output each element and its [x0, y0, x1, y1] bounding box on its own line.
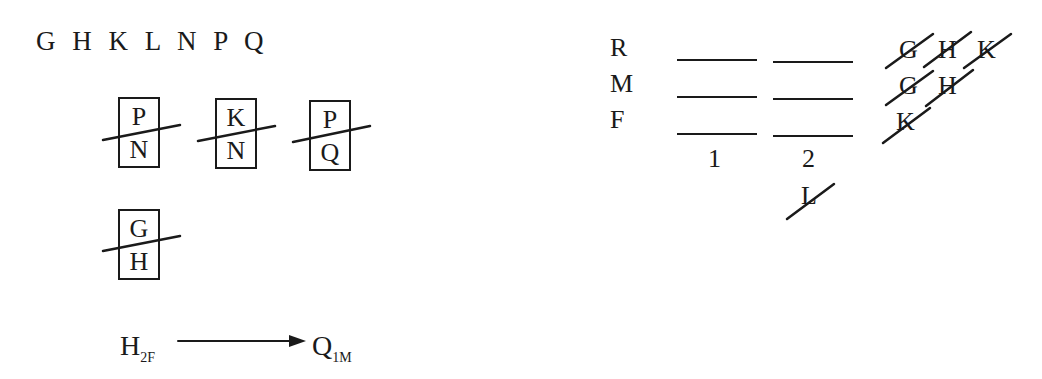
row-label-r: R: [610, 34, 627, 62]
pair-box-p-n: P N: [118, 97, 160, 168]
candidate-col2-l: L: [801, 182, 817, 210]
rule-from-letter: H: [120, 330, 140, 361]
pair-box-p-q: P Q: [309, 100, 351, 171]
slot-r-1: [677, 59, 757, 61]
pair-box-bottom: N: [217, 137, 255, 165]
pair-box-top: P: [311, 106, 349, 134]
pair-box-bottom: N: [120, 136, 158, 164]
rule-to-subscript: 1M: [332, 350, 351, 365]
slot-r-2: [773, 61, 853, 63]
row-label-f: F: [610, 106, 624, 134]
pair-box-top: G: [120, 215, 158, 243]
rule-from: H2F: [120, 330, 155, 362]
candidate-m-h: H: [938, 72, 957, 100]
slot-m-1: [677, 96, 757, 98]
letter-set: G H K L N P Q: [36, 26, 269, 57]
candidate-r-h: H: [938, 36, 957, 64]
pair-box-top: K: [217, 104, 255, 132]
pair-box-bottom: H: [120, 248, 158, 276]
slot-m-2: [773, 98, 853, 100]
pair-box-g-h: G H: [118, 209, 160, 280]
slot-f-1: [677, 133, 757, 135]
arrow-head-icon: [289, 335, 306, 347]
candidate-r-k: K: [977, 36, 996, 64]
pair-box-top: P: [120, 103, 158, 131]
column-label-1: 1: [708, 144, 721, 174]
rule-from-subscript: 2F: [140, 350, 155, 365]
rule-to: Q1M: [312, 330, 352, 362]
pair-box-k-n: K N: [215, 98, 257, 169]
candidate-r-g: G: [899, 36, 918, 64]
pair-box-bottom: Q: [311, 139, 349, 167]
slot-f-2: [773, 135, 853, 137]
column-label-2: 2: [802, 144, 815, 174]
rule-to-letter: Q: [312, 330, 332, 361]
candidate-m-g: G: [899, 72, 918, 100]
candidate-f-k: K: [896, 108, 915, 136]
row-label-m: M: [610, 70, 633, 98]
